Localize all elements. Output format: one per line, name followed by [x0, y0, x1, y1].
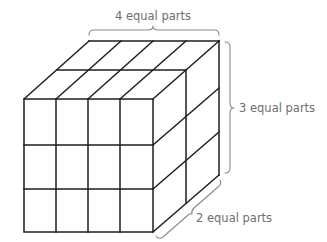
depth-label: 2 equal parts	[196, 211, 272, 225]
prism	[24, 41, 219, 232]
width-label: 4 equal parts	[115, 9, 191, 23]
height-brace	[225, 42, 234, 173]
height-annotation: 3 equal parts	[225, 42, 315, 173]
width-annotation: 4 equal parts	[89, 9, 219, 35]
cube-diagram: 4 equal parts 3 equal parts 2 equal part…	[0, 0, 327, 242]
depth-brace	[156, 180, 221, 238]
depth-annotation: 2 equal parts	[156, 180, 272, 238]
height-label: 3 equal parts	[239, 101, 315, 115]
width-brace	[89, 26, 219, 35]
